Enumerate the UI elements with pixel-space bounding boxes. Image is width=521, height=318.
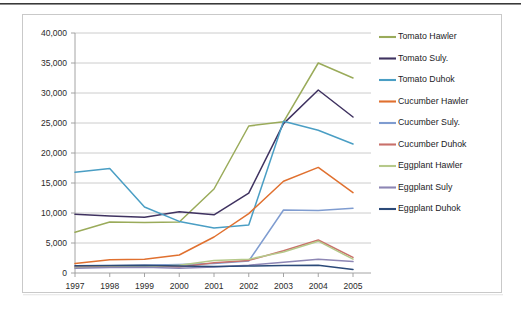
legend-item-label[interactable]: Tomato Duhok: [398, 74, 455, 84]
series-group: [75, 63, 353, 269]
x-axis-tick-label: 1997: [66, 281, 85, 291]
y-axis-tick-label: 5,000: [46, 238, 68, 248]
x-axis-tick-label: 2003: [274, 281, 293, 291]
x-axis-tick-label: 2004: [309, 281, 328, 291]
x-axis-tick-label: 1998: [100, 281, 119, 291]
x-axis-tick-label: 2000: [170, 281, 189, 291]
y-axis-tick-label: 40,000: [41, 28, 67, 38]
legend-item-label[interactable]: Eggplant Suly: [398, 182, 453, 192]
y-axis-tick-label: 35,000: [41, 58, 67, 68]
y-axis-tick-label: 30,000: [41, 88, 67, 98]
series-line: [75, 121, 353, 228]
legend-item-label[interactable]: Eggplant Duhok: [398, 203, 461, 213]
panel-drop-shadow: [23, 294, 503, 296]
x-axis-tick-label: 2001: [205, 281, 224, 291]
y-axis-group: 05,00010,00015,00020,00025,00030,00035,0…: [41, 28, 75, 278]
x-axis-tick-label: 1999: [135, 281, 154, 291]
legend-item-label[interactable]: Cucumber Suly.: [398, 117, 460, 127]
x-axis-tick-label: 2005: [344, 281, 363, 291]
series-line: [75, 90, 353, 217]
line-chart-svg: 05,00010,00015,00020,00025,00030,00035,0…: [23, 15, 503, 294]
y-axis-tick-label: 10,000: [41, 208, 67, 218]
x-axis-group: 199719981999200020012002200320042005: [66, 273, 371, 291]
plot-area-wrapper: 05,00010,00015,00020,00025,00030,00035,0…: [23, 15, 503, 294]
y-axis-tick-label: 0: [62, 268, 67, 278]
legend-group: Tomato HawlerTomato Suly.Tomato DuhokCuc…: [379, 31, 468, 213]
top-divider-rule-shadow: [0, 4, 521, 5]
series-line: [75, 63, 353, 232]
chart-figure-panel: 05,00010,00015,00020,00025,00030,00035,0…: [22, 14, 502, 293]
legend-item-label[interactable]: Tomato Suly.: [398, 53, 448, 63]
gridlines-group: [75, 33, 371, 243]
legend-item-label[interactable]: Tomato Hawler: [398, 31, 457, 41]
legend-item-label[interactable]: Cucumber Hawler: [398, 96, 468, 106]
y-axis-tick-label: 25,000: [41, 118, 67, 128]
y-axis-tick-label: 20,000: [41, 148, 67, 158]
y-axis-tick-label: 15,000: [41, 178, 67, 188]
legend-item-label[interactable]: Eggplant Hawler: [398, 160, 463, 170]
x-axis-tick-label: 2002: [239, 281, 258, 291]
legend-item-label[interactable]: Cucumber Duhok: [398, 139, 467, 149]
screenshot-root: 05,00010,00015,00020,00025,00030,00035,0…: [0, 0, 521, 318]
